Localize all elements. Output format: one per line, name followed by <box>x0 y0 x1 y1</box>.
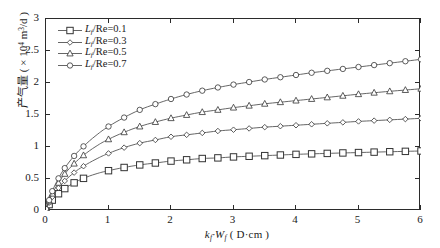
y-axis-tick-right <box>415 82 420 83</box>
series-marker <box>81 163 87 169</box>
legend-item[interactable]: Lf/Re=0.7 <box>57 60 126 72</box>
legend: Lf/Re=0.1Lf/Re=0.3Lf/Re=0.5Lf/Re=0.7 <box>57 25 126 71</box>
series-marker <box>215 128 221 134</box>
x-axis-tick-top <box>295 18 296 23</box>
y-axis-title: 产气量 ( × 104 m3/d ) <box>14 0 30 155</box>
series-marker <box>121 145 127 151</box>
series-marker <box>418 116 421 122</box>
legend-label-rest: /Re=0.1 <box>93 23 127 34</box>
series-marker <box>50 188 55 193</box>
y-axis-tick <box>45 50 50 51</box>
series-marker <box>262 124 268 130</box>
series-marker <box>137 107 142 112</box>
series-marker <box>105 167 111 173</box>
legend-label-rest: /Re=0.3 <box>93 35 127 46</box>
series-marker <box>277 152 283 158</box>
data-series <box>46 57 421 211</box>
y-axis-tick <box>45 146 50 147</box>
series-marker <box>293 122 299 128</box>
y-axis-title-units-post: /d ) <box>17 12 29 27</box>
x-tick-label: 3 <box>221 213 245 225</box>
x-tick-label: 2 <box>158 213 182 225</box>
data-series <box>46 116 421 211</box>
y-axis-tick <box>45 18 50 19</box>
series-marker <box>199 155 205 161</box>
series-marker <box>387 149 393 155</box>
y-axis-tick-right <box>415 146 420 147</box>
series-marker <box>246 153 252 159</box>
x-axis-title: kf·Wf ( D·cm ) <box>0 228 440 242</box>
legend-marker-diamond-icon <box>57 37 83 48</box>
x-tick-label: 4 <box>283 213 307 225</box>
series-marker <box>356 119 362 125</box>
series-marker <box>121 164 127 170</box>
series-marker <box>371 62 376 67</box>
x-axis-tick-top <box>233 18 234 23</box>
y-axis-title-exp-4: 4 <box>17 42 26 46</box>
series-marker <box>278 75 283 80</box>
series-marker <box>387 117 393 123</box>
series-marker <box>293 72 298 77</box>
series-marker <box>105 136 111 142</box>
series-marker <box>325 68 330 73</box>
x-axis-tick-top <box>420 18 421 23</box>
x-axis-tick <box>170 205 171 210</box>
series-marker <box>71 180 77 186</box>
series-marker <box>309 70 314 75</box>
series-marker <box>231 127 237 133</box>
series-marker <box>293 151 299 157</box>
series-marker <box>402 148 408 154</box>
series-marker <box>371 118 377 124</box>
series-marker <box>46 197 51 202</box>
y-axis-tick-right <box>415 114 420 115</box>
chart-figure: 0123456 00.511.522.53 kf·Wf ( D·cm ) 产气量… <box>0 0 440 248</box>
y-axis-title-exp-3: 3 <box>17 27 26 31</box>
y-axis-tick <box>45 114 50 115</box>
legend-marker-square-icon <box>57 25 83 36</box>
y-axis-tick-right <box>415 18 420 19</box>
x-axis-tick-top <box>170 18 171 23</box>
legend-label-rest: /Re=0.7 <box>93 58 127 69</box>
series-marker <box>278 123 284 129</box>
series-marker <box>340 66 345 71</box>
x-axis-tick <box>295 205 296 210</box>
series-marker <box>215 155 221 161</box>
legend-label-rest: /Re=0.5 <box>93 46 127 57</box>
y-tick-label: 0.5 <box>9 172 39 183</box>
series-marker <box>355 149 361 155</box>
y-axis-tick <box>45 178 50 179</box>
y-axis-tick-right <box>415 178 420 179</box>
series-marker <box>356 64 361 69</box>
y-axis-title-cn: 产气量 <box>17 75 29 108</box>
series-marker <box>262 77 267 82</box>
series-marker <box>71 153 76 158</box>
series-marker <box>324 150 330 156</box>
series-marker <box>121 115 126 120</box>
legend-marker-circle-icon <box>57 60 83 71</box>
x-axis-tick <box>420 205 421 210</box>
y-axis-tick-right <box>415 50 420 51</box>
series-marker <box>371 149 377 155</box>
series-marker <box>199 130 205 136</box>
series-marker <box>246 126 252 132</box>
series-marker <box>106 151 112 157</box>
x-axis-title-mid: ·W <box>212 228 224 240</box>
series-marker <box>137 162 143 168</box>
legend-label: Lf/Re=0.7 <box>85 58 126 73</box>
series-marker <box>168 96 173 101</box>
series-marker <box>106 124 111 129</box>
x-tick-label: 1 <box>96 213 120 225</box>
x-axis-tick <box>358 205 359 210</box>
series-marker <box>153 101 158 106</box>
series-marker <box>418 57 421 62</box>
series-marker <box>184 132 190 138</box>
series-marker <box>80 175 86 181</box>
y-axis-tick <box>45 82 50 83</box>
series-marker <box>62 165 67 170</box>
series-marker <box>168 134 174 140</box>
series-marker <box>183 157 189 163</box>
series-marker <box>340 150 346 156</box>
data-series <box>46 85 421 211</box>
x-axis-title-units: ( D·cm ) <box>227 228 269 240</box>
x-axis-tick-top <box>358 18 359 23</box>
